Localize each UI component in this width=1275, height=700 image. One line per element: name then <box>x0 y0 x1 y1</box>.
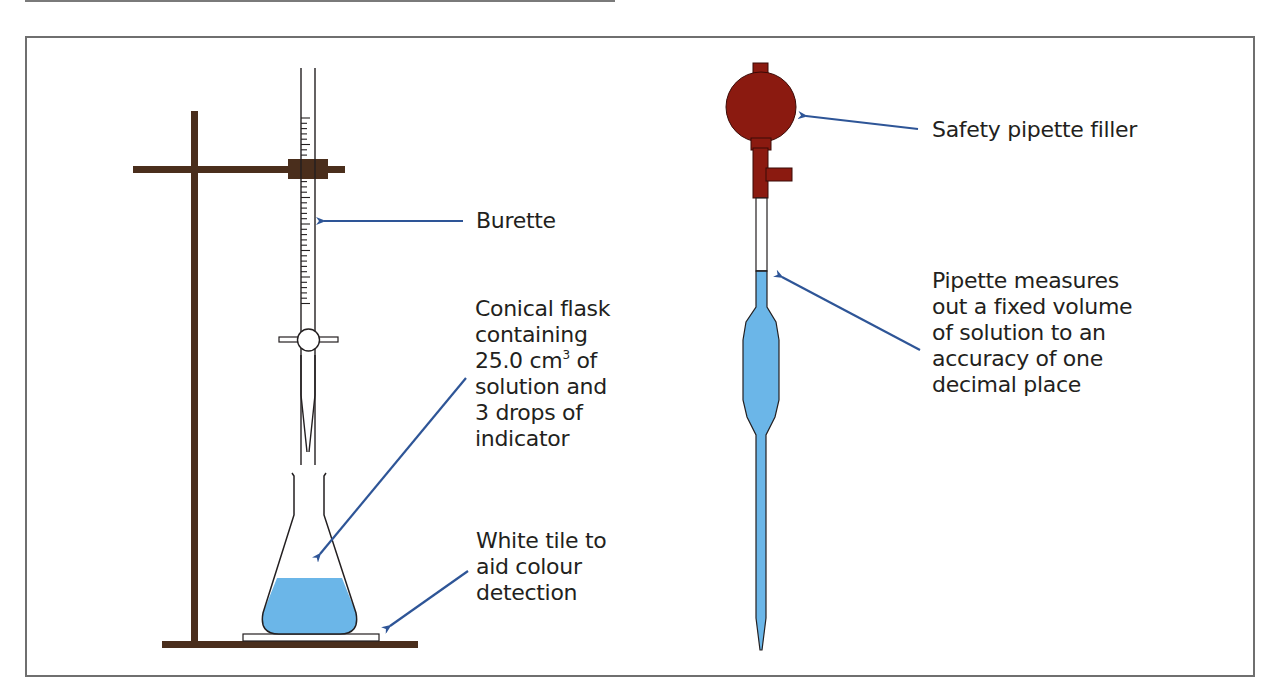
arrow-flask <box>320 378 466 554</box>
flask-line-5: 3 drops of <box>475 400 610 426</box>
flask-line-3: 25.0 cm3 of <box>475 348 610 374</box>
flask-volume: 25.0 cm <box>475 348 562 373</box>
retort-stand <box>133 111 418 648</box>
stopcock <box>298 329 320 351</box>
stand-rod <box>191 111 198 646</box>
flask-line-6: indicator <box>475 426 610 452</box>
conical-flask <box>262 473 356 634</box>
clamp-boss <box>288 159 328 179</box>
pipette-line-3: of solution to an <box>932 320 1132 346</box>
pipette-empty-stem <box>756 198 767 271</box>
pipette-line-5: decimal place <box>932 372 1132 398</box>
pipette-body <box>743 271 779 650</box>
stand-base <box>162 641 418 648</box>
tile-line-1: White tile to <box>476 528 607 554</box>
arrow-filler <box>806 116 918 129</box>
flask-line-4: solution and <box>475 374 610 400</box>
arrow-pipette <box>782 277 920 350</box>
flask-liquid <box>262 578 356 634</box>
label-burette-text: Burette <box>476 208 556 234</box>
pipette-line-2: out a fixed volume <box>932 294 1132 320</box>
tile-line-3: detection <box>476 580 607 606</box>
flask-volume-unit-exponent: 3 <box>562 348 569 362</box>
label-pipette: Pipette measures out a fixed volume of s… <box>932 268 1132 398</box>
pipette-line-1: Pipette measures <box>932 268 1132 294</box>
annotation-arrows <box>320 116 920 626</box>
arrow-tile <box>390 571 468 626</box>
pipette-line-4: accuracy of one <box>932 346 1132 372</box>
label-conical-flask: Conical flask containing 25.0 cm3 of sol… <box>475 296 610 452</box>
burette <box>279 68 338 465</box>
white-tile <box>243 634 379 641</box>
tile-line-2: aid colour <box>476 554 607 580</box>
label-white-tile: White tile to aid colour detection <box>476 528 607 606</box>
label-safety-pipette-filler: Safety pipette filler <box>932 117 1137 143</box>
flask-line-1: Conical flask <box>475 296 610 322</box>
burette-graduations <box>301 118 310 304</box>
label-burette: Burette <box>476 208 556 234</box>
pipette <box>743 198 779 650</box>
filler-text: Safety pipette filler <box>932 117 1137 143</box>
flask-line-2: containing <box>475 322 610 348</box>
flask-line-3-tail: of <box>570 348 597 373</box>
safety-pipette-filler <box>726 63 796 198</box>
